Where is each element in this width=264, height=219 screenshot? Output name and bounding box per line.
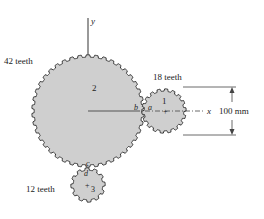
- gear-3-center: +: [85, 181, 90, 190]
- gear-1-label: 1: [162, 96, 167, 106]
- gear-2-label: 2: [92, 83, 97, 93]
- contact-b-label: b: [134, 103, 138, 112]
- gear-1-teeth-label: 18 teeth: [153, 72, 182, 82]
- y-axis-label: y: [90, 16, 95, 26]
- contact-c-label: c: [86, 159, 90, 168]
- gear-1-center: +: [163, 107, 168, 116]
- arrow-up-icon: [230, 87, 235, 93]
- x-axis-label: x: [206, 106, 211, 116]
- gear-3-label: 3: [91, 185, 95, 194]
- gear-2-teeth-label: 42 teeth: [4, 56, 33, 66]
- gear-3-teeth-label: 12 teeth: [26, 184, 55, 194]
- contact-a-label: a: [148, 103, 152, 112]
- dimension-label: 100 mm: [219, 106, 249, 116]
- arrow-down-icon: [230, 129, 235, 135]
- gear-diagram: yx++21342 teeth18 teeth12 teethbacd100 m…: [0, 0, 264, 219]
